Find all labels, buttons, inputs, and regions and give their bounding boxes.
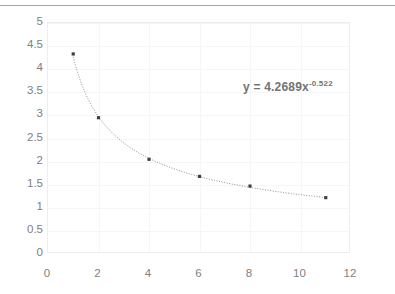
data-point-marker — [147, 158, 150, 161]
y-tick-label: 0 — [3, 247, 43, 259]
equation-base: y = 4.2689x — [243, 80, 309, 94]
y-axis-tick-labels: 00.511.522.533.544.55 — [0, 22, 43, 253]
y-tick-label: 1 — [3, 201, 43, 213]
y-tick-label: 2 — [3, 155, 43, 167]
x-tick-label: 2 — [78, 268, 118, 280]
x-tick-label: 12 — [330, 268, 370, 280]
x-tick-label: 10 — [280, 268, 320, 280]
data-point-marker — [198, 175, 201, 178]
data-point-marker — [72, 52, 75, 55]
plot-svg — [48, 23, 351, 254]
y-tick-label: 1.5 — [3, 178, 43, 190]
y-tick-label: 4.5 — [3, 39, 43, 51]
y-tick-label: 3 — [3, 109, 43, 121]
x-tick-label: 4 — [128, 268, 168, 280]
x-tick-label: 8 — [229, 268, 269, 280]
power-regression-chart: 00.511.522.533.544.55 y = 4.2689x-0.522 … — [0, 0, 395, 294]
y-tick-label: 2.5 — [3, 132, 43, 144]
data-point-marker — [324, 196, 327, 199]
data-point-markers — [72, 52, 328, 199]
data-point-marker — [248, 184, 251, 187]
y-tick-label: 3.5 — [3, 86, 43, 98]
x-axis-tick-labels: 024681012 — [47, 268, 350, 284]
y-tick-label: 4 — [3, 62, 43, 74]
trendline-equation-label: y = 4.2689x-0.522 — [243, 79, 333, 94]
data-point-marker — [97, 116, 100, 119]
y-tick-label: 0.5 — [3, 224, 43, 236]
x-tick-label: 6 — [179, 268, 219, 280]
top-divider-rule — [0, 5, 395, 6]
x-tick-label: 0 — [27, 268, 67, 280]
plot-area — [47, 22, 350, 253]
y-tick-label: 5 — [3, 16, 43, 28]
equation-exponent: -0.522 — [309, 79, 333, 88]
